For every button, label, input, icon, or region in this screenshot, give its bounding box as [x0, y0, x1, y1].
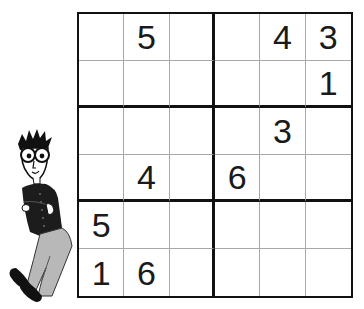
grid-cell[interactable]: 5 [124, 14, 169, 61]
grid-cell[interactable] [79, 61, 124, 108]
grid-cell[interactable] [260, 61, 305, 108]
grid-cell[interactable] [124, 61, 169, 108]
grid-cell[interactable] [215, 249, 260, 296]
grid-cell[interactable] [306, 155, 351, 202]
grid-cell[interactable] [170, 202, 215, 249]
grid-cell[interactable] [170, 14, 215, 61]
grid-cell[interactable] [215, 202, 260, 249]
grid-cell[interactable] [79, 155, 124, 202]
grid-cell[interactable]: 5 [79, 202, 124, 249]
grid-cell[interactable]: 4 [124, 155, 169, 202]
grid-cell[interactable] [215, 108, 260, 155]
grid-cell[interactable]: 4 [260, 14, 305, 61]
grid-cell[interactable] [124, 108, 169, 155]
grid-cell[interactable] [215, 61, 260, 108]
grid-cell[interactable]: 3 [306, 14, 351, 61]
grid-cell[interactable] [306, 249, 351, 296]
grid-cell[interactable] [170, 61, 215, 108]
sudoku-grid: 5 4 3 1 3 4 6 5 1 6 [77, 12, 353, 298]
grid-cell[interactable] [215, 14, 260, 61]
grid-cell[interactable] [306, 108, 351, 155]
hair-icon [18, 129, 52, 150]
grid-cell[interactable] [170, 249, 215, 296]
grid-cell[interactable] [170, 108, 215, 155]
cartoon-man-leaning-icon [6, 128, 80, 304]
grid-cell[interactable] [260, 249, 305, 296]
grid-cell[interactable] [124, 202, 169, 249]
grid-cell[interactable]: 6 [124, 249, 169, 296]
grid-cell[interactable]: 3 [260, 108, 305, 155]
grid-cell[interactable] [79, 14, 124, 61]
grid-cell[interactable]: 6 [215, 155, 260, 202]
grid-cell[interactable] [260, 202, 305, 249]
grid-cell[interactable]: 1 [306, 61, 351, 108]
grid-cell[interactable] [260, 155, 305, 202]
grid-cell[interactable] [306, 202, 351, 249]
grid-cell[interactable] [79, 108, 124, 155]
grid-cell[interactable] [170, 155, 215, 202]
grid-cell[interactable]: 1 [79, 249, 124, 296]
